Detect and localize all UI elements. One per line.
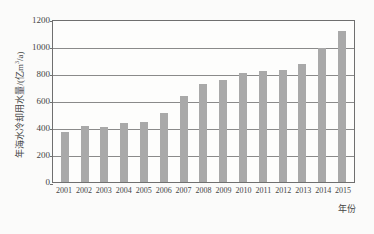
bar-2001 [61, 132, 69, 182]
chart-figure: 年海水冷却用水量/(亿m3/a) 1200 1000 800 600 400 2… [0, 0, 374, 234]
y-tickmark-0 [50, 184, 53, 185]
bar-slot [75, 21, 95, 182]
x-tick-label-2009: 2009 [214, 186, 234, 196]
plot-area [52, 20, 355, 183]
y-tick-label-400: 400 [18, 124, 50, 133]
bar-2005 [140, 122, 148, 182]
x-tick-label-2002: 2002 [74, 186, 94, 196]
x-tick-label-2015: 2015 [333, 186, 353, 196]
x-tick-label-2014: 2014 [313, 186, 333, 196]
x-tick-label-2001: 2001 [54, 186, 74, 196]
x-tick-label-2011: 2011 [253, 186, 273, 196]
x-tick-label-2003: 2003 [94, 186, 114, 196]
bar-slot [312, 21, 332, 182]
bar-slot [213, 21, 233, 182]
bar-slot [134, 21, 154, 182]
x-tick-label-2005: 2005 [134, 186, 154, 196]
bar-slot [95, 21, 115, 182]
y-tick-label-0: 0 [18, 178, 50, 187]
bar-slot [174, 21, 194, 182]
bar-2002 [81, 126, 89, 182]
bar-2008 [199, 84, 207, 182]
y-tick-label-600: 600 [18, 97, 50, 106]
x-tick-label-2004: 2004 [114, 186, 134, 196]
x-tick-label-2006: 2006 [154, 186, 174, 196]
y-axis-tick-labels: 1200 1000 800 600 400 200 0 [18, 14, 50, 189]
bar-slot [55, 21, 75, 182]
y-tick-label-800: 800 [18, 70, 50, 79]
bar-2006 [160, 113, 168, 182]
bar-2014 [318, 48, 326, 182]
bar-slot [194, 21, 214, 182]
x-tick-label-2013: 2013 [293, 186, 313, 196]
bar-slot [332, 21, 352, 182]
bar-2009 [219, 80, 227, 182]
bar-slot [253, 21, 273, 182]
x-axis-title: 年份 [338, 202, 356, 215]
bar-slot [114, 21, 134, 182]
x-tick-label-2008: 2008 [194, 186, 214, 196]
bar-slot [273, 21, 293, 182]
bar-2013 [298, 64, 306, 182]
bar-2007 [180, 96, 188, 182]
x-tick-label-2010: 2010 [233, 186, 253, 196]
y-tick-label-200: 200 [18, 151, 50, 160]
bar-2015 [338, 31, 346, 182]
bar-2012 [279, 70, 287, 182]
bar-2004 [120, 123, 128, 182]
bar-2010 [239, 73, 247, 182]
bar-series [53, 21, 354, 182]
bar-slot [293, 21, 313, 182]
y-tick-label-1200: 1200 [18, 16, 50, 25]
bar-slot [233, 21, 253, 182]
x-tick-label-2012: 2012 [273, 186, 293, 196]
bar-2003 [100, 127, 108, 182]
bar-2011 [259, 71, 267, 182]
x-tick-label-2007: 2007 [174, 186, 194, 196]
bar-slot [154, 21, 174, 182]
y-tick-label-1000: 1000 [18, 43, 50, 52]
x-axis-tick-labels: 2001200220032004200520062007200820092010… [52, 186, 355, 196]
